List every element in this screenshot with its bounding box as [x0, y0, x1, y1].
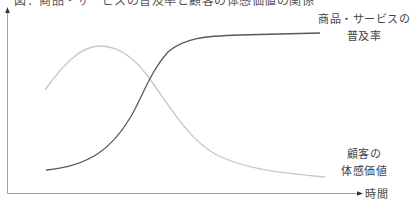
adoption-curve [46, 33, 320, 170]
adoption-rate-label: 商品・サービスの 普及率 [318, 11, 410, 45]
y-axis-arrow-icon [5, 7, 10, 13]
value-curve [45, 46, 325, 177]
x-axis-arrow-icon [357, 191, 363, 196]
value-label-line1: 顧客の [334, 146, 394, 163]
adoption-label-line2: 普及率 [318, 28, 410, 45]
perceived-value-label: 顧客の 体感価値 [334, 146, 394, 180]
value-label-line2: 体感価値 [334, 163, 394, 180]
adoption-label-line1: 商品・サービスの [318, 11, 410, 28]
x-axis-label: 時間 [365, 186, 388, 203]
